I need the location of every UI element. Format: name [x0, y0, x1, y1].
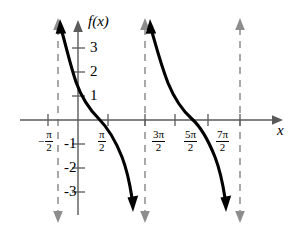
- fraction-denominator: 2: [216, 142, 229, 154]
- fraction-numerator: π: [45, 129, 53, 142]
- x-tick-label-pi-over-2: π 2: [98, 129, 106, 153]
- y-tick-label-3: 3: [90, 40, 98, 55]
- x-axis: [20, 115, 283, 125]
- x-axis-label: x: [277, 123, 284, 138]
- fraction-denominator: 2: [184, 142, 197, 154]
- function-graph-figure: f(x) x 3 2 1 -1 -2 -3 − π 2 π 2 3π 2 5π …: [0, 0, 297, 231]
- fraction-denominator: 2: [152, 142, 165, 154]
- fraction-numerator: 3π: [152, 129, 165, 142]
- fraction-numerator: 7π: [216, 129, 229, 142]
- y-tick-label-neg-1: -1: [64, 136, 77, 151]
- x-tick-label-3pi-over-2: 3π 2: [152, 129, 165, 153]
- y-tick-label-2: 2: [90, 64, 98, 79]
- y-axis-label: f(x): [88, 14, 109, 29]
- y-tick-label-neg-3: -3: [64, 184, 77, 199]
- curve-branch-2: [146, 19, 232, 212]
- fraction-numerator: 5π: [184, 129, 197, 142]
- y-tick-label-1: 1: [90, 88, 98, 103]
- fraction-numerator: π: [98, 129, 106, 142]
- fraction-denominator: 2: [98, 142, 106, 154]
- x-tick-label-5pi-over-2: 5π 2: [184, 129, 197, 153]
- plot-canvas: [0, 0, 297, 231]
- fraction-denominator: 2: [45, 142, 53, 154]
- y-tick-label-neg-2: -2: [64, 160, 77, 175]
- x-tick-label-7pi-over-2: 7π 2: [216, 129, 229, 153]
- x-tick-label-neg-pi-over-2: − π 2: [38, 129, 53, 153]
- minus-sign: −: [38, 136, 45, 147]
